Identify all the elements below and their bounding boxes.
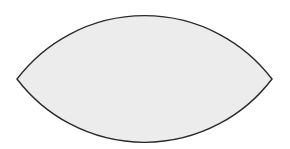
lens-shape — [17, 16, 272, 143]
lens-diagram — [0, 0, 290, 149]
